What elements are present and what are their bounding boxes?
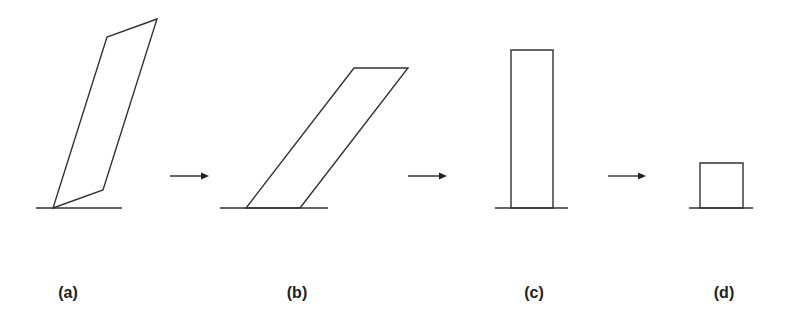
shape-a-tilted-block	[53, 19, 157, 208]
label-d: (d)	[714, 284, 734, 302]
transformation-diagram	[0, 0, 787, 327]
panel-b	[220, 68, 408, 208]
arrowhead-icon	[439, 173, 447, 180]
arrowhead-icon	[638, 173, 646, 180]
arrowhead-icon	[201, 173, 209, 180]
panel-a	[36, 19, 157, 208]
shape-b-sheared-block	[246, 68, 408, 208]
label-c: (c)	[524, 284, 544, 302]
arrow-1	[170, 173, 209, 180]
panel-d	[689, 163, 753, 208]
panel-c	[495, 50, 568, 208]
shape-c-tall-rectangle	[511, 50, 553, 208]
label-a: (a)	[58, 284, 78, 302]
arrow-2	[408, 173, 447, 180]
label-b: (b)	[287, 284, 307, 302]
arrow-3	[608, 173, 646, 180]
shape-d-short-square	[700, 163, 743, 208]
